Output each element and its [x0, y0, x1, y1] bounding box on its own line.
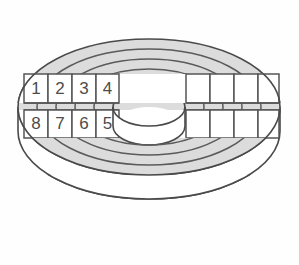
- sector-cell-upper-r2[interactable]: [210, 74, 234, 103]
- sector-label-8: 8: [31, 114, 40, 133]
- upper-row-left-cells: 1 2 3 4: [24, 74, 119, 103]
- disk-platter-figure: 1 2 3 4: [0, 0, 299, 265]
- disk-platter-svg: 1 2 3 4: [0, 0, 299, 265]
- sector-label-7: 7: [55, 114, 64, 133]
- sector-label-3: 3: [79, 79, 88, 98]
- sector-cell-lower-r2[interactable]: [210, 110, 234, 138]
- sector-label-2: 2: [55, 79, 64, 98]
- sector-cell-upper-r3[interactable]: [234, 74, 258, 103]
- sector-label-4: 4: [103, 79, 112, 98]
- lower-row-left-cells: 8 7 6 5: [24, 110, 119, 138]
- sector-label-1: 1: [31, 79, 40, 98]
- sector-label-5: 5: [103, 114, 112, 133]
- upper-row-right-cells: [186, 74, 279, 103]
- sector-cell-upper-r1[interactable]: [186, 74, 210, 103]
- lower-row-right-cells: [186, 110, 279, 138]
- sector-label-6: 6: [79, 114, 88, 133]
- sector-cell-lower-r1[interactable]: [186, 110, 210, 138]
- sector-cell-lower-r3[interactable]: [234, 110, 258, 138]
